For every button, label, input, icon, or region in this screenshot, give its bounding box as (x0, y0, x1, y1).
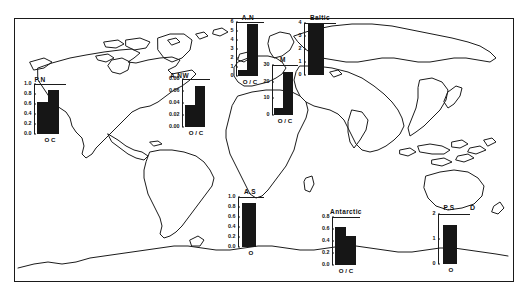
figure-canvas: P.N 1.0 0.8 0.6 0.4 0.2 0.0 O C A.NW 0.0… (0, 0, 528, 300)
ytick-a-nw-1: 0.06 (169, 88, 182, 93)
ytick-p-n-2: 0.6 (24, 101, 34, 106)
ytick-a-n-5: 1 (231, 64, 237, 69)
bar-p-n-observed (37, 102, 48, 135)
chart-title-p-n: P.N (12, 76, 68, 83)
ytick-a-nw-3: 0.02 (169, 112, 182, 117)
chart-p-s: P.S D 2 1 0 O (418, 204, 480, 280)
chart-p-n: P.N 1.0 0.8 0.6 0.4 0.2 0.0 O C (12, 76, 68, 144)
chart-a-nw: A.NW 0.08 0.06 0.04 0.02 0.00 O / C (156, 72, 218, 144)
ytick-a-s-0: 1.0 (228, 194, 238, 199)
y-axis-mediterranean (272, 65, 273, 115)
top-rule-a-n (236, 22, 264, 23)
bar-ant-calculated (346, 236, 356, 265)
bar-a-n-observed (238, 70, 247, 77)
top-rule-a-nw (182, 79, 210, 80)
bar-a-nw-observed (185, 105, 195, 127)
ytick-p-n-3: 0.4 (24, 111, 34, 116)
ytick-p-n-1: 0.8 (24, 91, 34, 96)
ytick-a-s-2: 0.6 (228, 214, 238, 219)
ytick-a-n-3: 3 (231, 46, 237, 51)
ytick-a-s-1: 0.8 (228, 204, 238, 209)
ytick-ant-3: 0.2 (322, 250, 332, 255)
chart-antarctic: Antarctic 0.8 0.6 0.4 0.2 0.0 O / C (302, 208, 372, 280)
bar-med-calculated (283, 72, 293, 115)
chart-a-s: A.S 1.0 0.8 0.6 0.4 0.2 0.0 O (214, 188, 270, 258)
top-rule-antarctic (332, 217, 360, 218)
ytick-a-nw-2: 0.04 (169, 100, 182, 105)
ytick-med-1: 20 (264, 79, 273, 84)
ytick-a-n-4: 2 (231, 55, 237, 60)
bar-baltic-observed (308, 24, 324, 75)
bar-p-n-calculated (48, 90, 59, 134)
ytick-a-nw-0: 0.08 (169, 76, 182, 81)
xlabel-a-nw: O / C (182, 129, 210, 136)
y-axis-p-n (34, 84, 35, 134)
ytick-med-0: 30 (264, 62, 273, 67)
ytick-a-n-2: 4 (231, 37, 237, 42)
ytick-p-s-1: 1 (433, 236, 439, 241)
bar-med-observed (274, 108, 283, 115)
chart-mediterranean: M 30 20 10 0 O / C (250, 56, 302, 132)
xlabel-p-n: O C (34, 136, 66, 143)
ytick-p-s-0: 2 (433, 211, 439, 216)
ytick-baltic-1: 3 (299, 33, 305, 38)
y-axis-a-s (238, 197, 239, 247)
xlabel-antarctic: O / C (330, 267, 362, 274)
ytick-a-s-4: 0.2 (228, 234, 238, 239)
ytick-ant-2: 0.4 (322, 238, 332, 243)
ytick-med-2: 10 (264, 96, 273, 101)
xlabel-p-s: O (436, 266, 466, 273)
top-rule-a-s (238, 197, 264, 198)
ytick-a-s-3: 0.4 (228, 224, 238, 229)
ytick-a-n-1: 5 (231, 28, 237, 33)
ytick-ant-0: 0.8 (322, 214, 332, 219)
bar-ant-observed (335, 227, 346, 265)
top-rule-p-s (438, 214, 470, 215)
chart-title-mediterranean: M (268, 56, 298, 63)
xlabel-a-s: O (236, 249, 266, 256)
ytick-p-n-5: 0.0 (24, 131, 34, 136)
bar-a-nw-calculated (195, 86, 205, 127)
ytick-p-n-4: 0.2 (24, 121, 34, 126)
ytick-a-nw-4: 0.00 (169, 124, 182, 129)
bar-a-s-observed (242, 203, 256, 247)
ytick-baltic-2: 2 (299, 46, 305, 51)
annotation-p-s: D (470, 204, 475, 211)
ytick-a-n-0: 6 (231, 19, 237, 24)
top-rule-p-n (34, 84, 66, 85)
top-rule-mediterranean (272, 65, 298, 66)
xlabel-mediterranean: O / C (270, 117, 300, 124)
ytick-ant-1: 0.6 (322, 226, 332, 231)
bar-p-s-observed (443, 225, 457, 264)
ytick-p-n-0: 1.0 (24, 81, 34, 86)
ytick-baltic-0: 4 (299, 20, 305, 25)
